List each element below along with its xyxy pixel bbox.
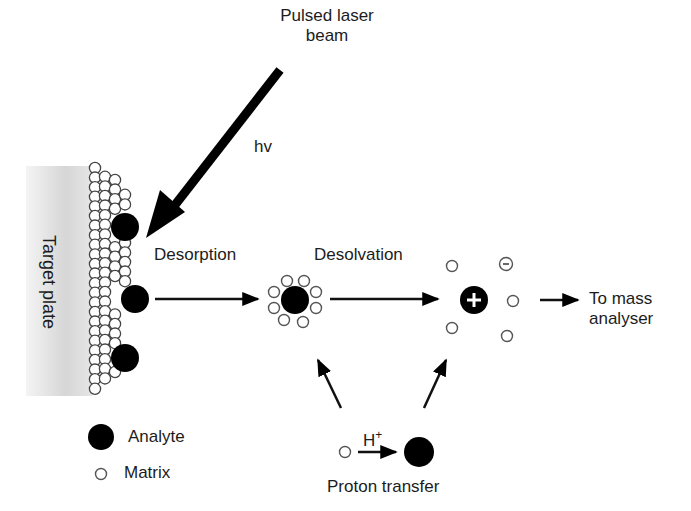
ion-cloud	[447, 258, 519, 342]
proton-transfer-label: Proton transfer	[327, 477, 439, 497]
legend-analyte-label: Analyte	[128, 427, 185, 447]
proton-label: H+	[363, 425, 382, 451]
proton-feed-arrow-right	[424, 360, 446, 408]
target-plate	[26, 166, 92, 396]
target-plate-label-wrap: Target plate	[38, 212, 58, 352]
laser-label: Pulsed laser beam	[262, 6, 392, 46]
to-mass-line2: analyser	[589, 309, 653, 329]
to-mass-line1: To mass	[589, 289, 653, 309]
proton-feed-arrow-left	[318, 360, 341, 408]
legend-analyte-symbol	[88, 424, 114, 450]
to-mass-analyser-label: To mass analyser	[589, 289, 653, 329]
matrix-molecule	[340, 447, 351, 458]
analyte-molecule	[404, 437, 434, 467]
legend-matrix-label: Matrix	[124, 463, 170, 483]
desorption-label: Desorption	[154, 245, 236, 265]
proton-charge: +	[375, 428, 382, 442]
desolvation-label: Desolvation	[314, 245, 403, 265]
laser-label-line2: beam	[262, 26, 392, 46]
embedded-analytes	[111, 213, 149, 372]
legend-matrix-symbol	[96, 469, 107, 480]
solvated-analyte-cluster	[269, 276, 322, 328]
maldi-diagram: Pulsed laser beam hv Target plate Desorp…	[0, 0, 691, 511]
laser-label-line1: Pulsed laser	[262, 6, 392, 26]
target-plate-label: Target plate	[38, 235, 59, 329]
photon-label: hv	[254, 137, 272, 157]
proton-symbol: H	[363, 431, 375, 450]
